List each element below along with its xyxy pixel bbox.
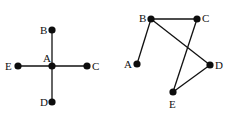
node-label-c: C — [202, 12, 209, 24]
node-e — [14, 62, 21, 69]
node-c — [193, 15, 200, 22]
node-b — [147, 15, 154, 22]
node-label-d: D — [40, 96, 48, 108]
node-b — [48, 26, 55, 33]
node-label-c: C — [92, 60, 99, 72]
edge-d-e — [173, 65, 210, 92]
node-d — [48, 98, 55, 105]
node-label-a: A — [43, 52, 51, 64]
node-d — [206, 61, 213, 68]
node-label-d: D — [215, 59, 223, 71]
node-label-b: B — [139, 12, 146, 24]
path-graph: ABCDE — [124, 12, 223, 110]
node-a — [133, 60, 140, 67]
node-label-a: A — [124, 58, 132, 70]
node-label-e: E — [5, 60, 12, 72]
edge-c-e — [173, 19, 197, 92]
graph-diagram: ABCDEABCDE — [0, 0, 227, 122]
star-graph: ABCDE — [5, 24, 99, 108]
edge-b-d — [151, 19, 210, 65]
node-e — [169, 88, 176, 95]
node-label-e: E — [169, 98, 176, 110]
edge-b-a — [137, 19, 151, 64]
node-label-b: B — [40, 24, 47, 36]
node-c — [83, 62, 90, 69]
